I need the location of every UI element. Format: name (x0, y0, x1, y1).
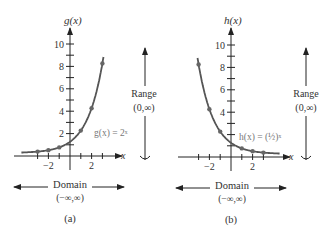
y-tick-label: 8 (220, 62, 225, 73)
data-point (196, 62, 200, 66)
x-axis-label-a: x (120, 150, 126, 161)
x-tick-label: −2 (204, 161, 215, 172)
range-value-a: (0,∞) (133, 102, 154, 114)
y-axis-label-b: h(x) (224, 14, 242, 27)
y-tick-label: 4 (59, 106, 64, 117)
y-tick-label: 4 (220, 107, 225, 118)
data-point (89, 106, 93, 110)
domain-label-a: Domain (53, 179, 88, 190)
data-point (240, 146, 244, 150)
y-tick-label: 10 (215, 40, 225, 51)
axes-a: −22246810 (14, 28, 122, 171)
y-tick-label: 8 (59, 61, 64, 72)
range-label-b: Range (293, 88, 319, 99)
x-tick-label: 2 (250, 161, 255, 172)
range-label-a: Range (131, 88, 157, 99)
data-point (57, 145, 61, 149)
panel-label-a: (a) (64, 213, 76, 225)
data-point (35, 149, 39, 153)
x-axis-label-b: x (288, 151, 294, 162)
data-point (218, 129, 222, 133)
panel-a: −22246810 g(x) x g(x) = 2ˣ Range (0,∞) D… (14, 14, 157, 225)
domain-value-a: (−∞,∞) (56, 193, 84, 204)
range-arrow-down-a (140, 116, 150, 160)
y-tick-label: 6 (59, 83, 64, 94)
x-tick-label: 2 (89, 160, 94, 171)
data-point (207, 107, 211, 111)
exponential-functions-figure: −22246810 g(x) x g(x) = 2ˣ Range (0,∞) D… (0, 0, 327, 235)
y-axis-label-a: g(x) (64, 14, 82, 27)
domain-label-b: Domain (215, 180, 250, 191)
range-arrow-down-b (301, 116, 311, 160)
x-tick-label: −2 (43, 160, 54, 171)
y-tick-label: 10 (54, 39, 64, 50)
data-point (46, 148, 50, 152)
panel-b: −2246810 h(x) x h(x) = (½)ˣ Range (0,∞) … (176, 14, 319, 226)
function-label-a: g(x) = 2ˣ (94, 128, 128, 139)
y-tick-label: 2 (59, 128, 64, 139)
data-point (261, 150, 265, 154)
function-label-b: h(x) = (½)ˣ (239, 132, 281, 143)
data-point (79, 128, 83, 132)
domain-value-b: (−∞,∞) (218, 194, 246, 205)
y-tick-label: 6 (220, 84, 225, 95)
data-point (100, 61, 104, 65)
data-point (250, 149, 254, 153)
axes-b: −2246810 (178, 28, 290, 172)
range-value-b: (0,∞) (295, 102, 316, 114)
panel-label-b: (b) (225, 214, 238, 226)
